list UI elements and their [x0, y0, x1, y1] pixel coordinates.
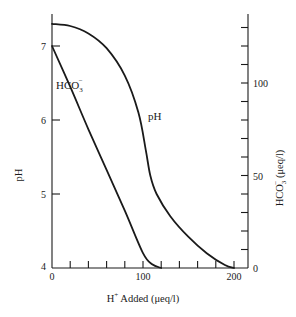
y-tick-label: 6 [41, 115, 46, 126]
series-layer [52, 24, 234, 268]
hco3-curve-label: HCO3− [56, 77, 83, 94]
left-axis: 4567 [41, 14, 60, 272]
y-tick-label: 7 [41, 41, 46, 52]
y2-tick-label: 50 [253, 171, 263, 182]
x-tick-label: 200 [227, 271, 242, 282]
x-tick-label: 0 [50, 271, 55, 282]
titration-chart: 4567 050100 0100200 pH H+ Added (μeq/l) … [0, 0, 296, 317]
x-axis-title: H+ Added (μeq/l) [107, 291, 180, 305]
right-axis: 050100 [241, 14, 268, 274]
y2-tick-label: 0 [253, 263, 258, 274]
y-axis-title: pH [13, 168, 24, 181]
ph-curve [52, 24, 234, 268]
x-tick-label: 100 [136, 271, 151, 282]
y-tick-label: 5 [41, 189, 46, 200]
y-tick-label: 4 [41, 261, 46, 272]
y2-axis-title: HCO3− (μeq/l) [272, 149, 288, 206]
bottom-axis: 0100200 [50, 261, 249, 282]
y2-tick-label: 100 [253, 78, 268, 89]
ph-curve-label: pH [148, 110, 162, 122]
